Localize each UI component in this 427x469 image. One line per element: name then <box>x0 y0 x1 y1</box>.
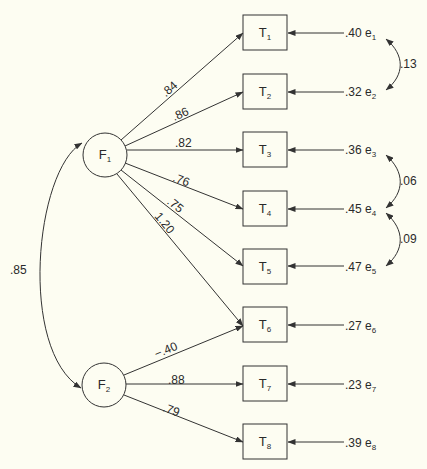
indicator-t2-label: T2 <box>255 85 275 101</box>
error-label-e4: .45 e4 <box>345 203 376 218</box>
loading-arrow-f2-t6 <box>124 326 243 375</box>
error-label-e6: .27 e6 <box>345 320 376 335</box>
error-label-e5: .47 e5 <box>345 261 376 276</box>
indicator-t5-label: T5 <box>255 260 275 276</box>
loading-label-f1-t3: .82 <box>175 137 192 149</box>
error-covariance-curve-e1-e2 <box>386 39 400 90</box>
factor-correlation-curve <box>40 143 82 388</box>
indicator-t6-label: T6 <box>255 318 275 334</box>
path-diagram: F1 F2 T1 T2 T3 T4 T5 T6 T7 T8 .40 e1 .32… <box>0 0 427 469</box>
indicator-t8-label: T8 <box>255 435 275 451</box>
loading-arrow-f1-t6 <box>117 174 243 326</box>
error-label-e1: .40 e1 <box>345 27 376 42</box>
indicator-t1-label: T1 <box>255 26 275 42</box>
error-label-e2: .32 e2 <box>345 86 376 101</box>
indicator-t7-label: T7 <box>255 377 275 393</box>
indicator-t4-label: T4 <box>255 202 275 218</box>
error-label-e7: .23 e7 <box>345 379 376 394</box>
diagram-graphics <box>0 0 427 469</box>
error-label-e3: .36 e3 <box>345 144 376 159</box>
error-covariance-label-e4-e5: .09 <box>400 233 417 245</box>
loading-label-f2-t7: .88 <box>168 374 185 386</box>
error-covariance-curve-e3-e4 <box>386 155 400 208</box>
error-covariance-label-e3-e4: .06 <box>400 175 417 187</box>
error-label-e8: .39 e8 <box>345 437 376 452</box>
error-covariance-label-e1-e2: .13 <box>400 58 417 70</box>
factor-correlation-label: .85 <box>10 264 27 276</box>
loading-arrow-f1-t1 <box>121 33 243 140</box>
error-covariance-curve-e4-e5 <box>386 213 400 266</box>
factor-f2-label: F2 <box>94 378 114 394</box>
factor-f1-label: F1 <box>95 148 115 164</box>
loading-arrow-f2-t8 <box>124 395 243 442</box>
indicator-t3-label: T3 <box>255 143 275 159</box>
